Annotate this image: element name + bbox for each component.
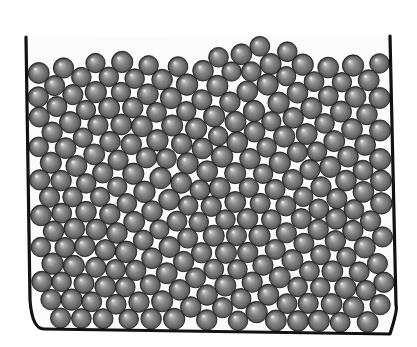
granular-packing-figure <box>0 0 417 347</box>
granular-packing-canvas <box>0 0 417 347</box>
